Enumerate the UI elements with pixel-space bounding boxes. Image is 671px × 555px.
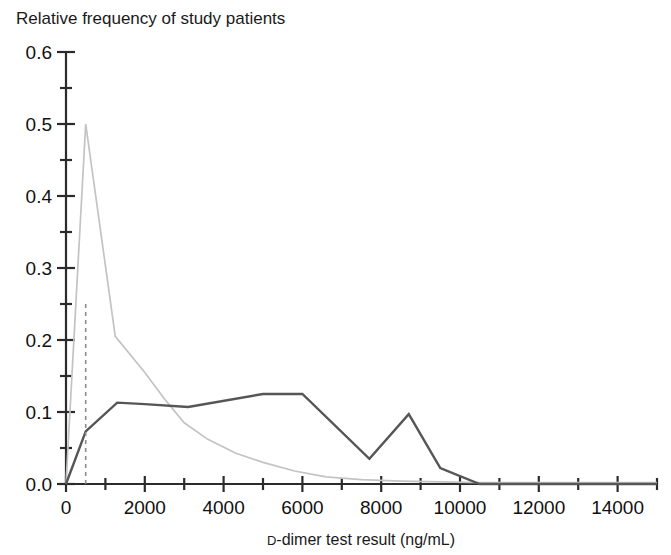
x-tick-label: 14000 [591, 497, 644, 518]
x-tick-label: 2000 [124, 497, 166, 518]
x-axis-title: D-dimer test result (ng/mL) [267, 531, 455, 548]
data-series-group [66, 124, 657, 484]
x-axis-title-smallcap-d: D [267, 533, 276, 548]
page-title: Relative frequency of study patients [16, 9, 285, 28]
x-tick-label: 6000 [281, 497, 323, 518]
series-line-patients-without-pulmonary-embolism [66, 124, 657, 484]
series-line-patients-with-pulmonary-embolism [66, 394, 657, 484]
chart-figure: Relative frequency of study patients 0.0… [0, 0, 671, 555]
x-tick-label: 10000 [434, 497, 487, 518]
y-axis: 0.00.10.20.30.40.50.6 [26, 42, 75, 495]
x-tick-label: 0 [61, 497, 72, 518]
y-tick-label: 0.0 [26, 474, 52, 495]
x-tick-label: 12000 [512, 497, 565, 518]
x-tick-label: 4000 [202, 497, 244, 518]
y-tick-label: 0.5 [26, 114, 52, 135]
y-tick-label: 0.3 [26, 258, 52, 279]
y-tick-label: 0.1 [26, 402, 52, 423]
x-tick-label: 8000 [360, 497, 402, 518]
x-axis-title-rest: -dimer test result (ng/mL) [276, 531, 455, 548]
y-tick-label: 0.4 [26, 186, 53, 207]
y-tick-label: 0.2 [26, 330, 52, 351]
y-tick-label: 0.6 [26, 42, 52, 63]
